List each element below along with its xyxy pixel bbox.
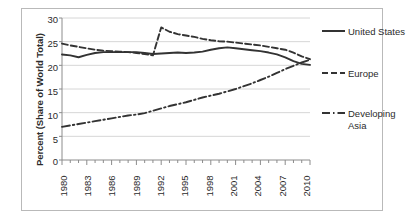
series-lines (62, 27, 310, 126)
legend-swatches (322, 31, 345, 113)
chart-figure: Percent (Share of World Total) 30 25 20 … (0, 0, 406, 223)
chart-plot-area (0, 0, 406, 223)
x-tick-marks (62, 160, 310, 165)
